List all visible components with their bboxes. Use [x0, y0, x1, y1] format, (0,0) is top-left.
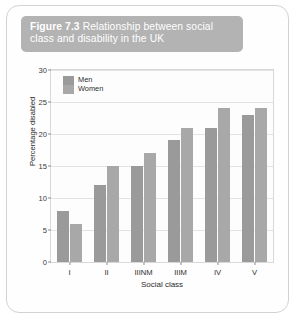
- gridline: [51, 134, 273, 135]
- y-axis-tick-mark: [48, 166, 51, 167]
- bar-v-women: [255, 108, 268, 262]
- y-axis-tick-label: 0: [43, 258, 47, 267]
- legend-labels: Men Women: [78, 75, 103, 93]
- y-axis-tick-mark: [48, 102, 51, 103]
- figure-title-banner: Figure 7.3 Relationship between social c…: [21, 16, 243, 52]
- bar-v-men: [242, 115, 255, 262]
- y-axis-tick-mark: [48, 134, 51, 135]
- y-axis-tick-label: 5: [43, 226, 47, 235]
- bar-iiinm-men: [131, 166, 144, 262]
- gridline: [51, 70, 273, 71]
- chart-plot-frame: 051015202530IIIIIINMIIIMIVV Men Women: [50, 69, 274, 263]
- x-axis-title: Social class: [50, 280, 274, 289]
- x-axis-tick-label: V: [252, 268, 257, 277]
- bar-iiim-women: [181, 128, 194, 262]
- x-axis-tick-mark: [180, 262, 181, 265]
- y-axis-tick-label: 30: [39, 66, 47, 75]
- x-axis-tick-mark: [106, 262, 107, 265]
- bar-ii-men: [94, 185, 107, 262]
- bar-iv-men: [205, 128, 218, 262]
- bar-i-men: [57, 211, 70, 262]
- legend-swatch-men: [63, 76, 74, 85]
- legend-swatch-women: [63, 85, 74, 94]
- x-axis-tick-mark: [217, 262, 218, 265]
- x-axis-tick-mark: [143, 262, 144, 265]
- gridline: [51, 198, 273, 199]
- y-axis-tick-mark: [48, 262, 51, 263]
- gridline: [51, 230, 273, 231]
- figure-number: Figure 7.3: [30, 21, 80, 32]
- y-axis-tick-mark: [48, 70, 51, 71]
- plot-area: 051015202530IIIIIINMIIIMIVV: [51, 70, 273, 262]
- bar-i-women: [70, 224, 83, 262]
- y-axis-tick-label: 20: [39, 130, 47, 139]
- x-axis-tick-label: IIIM: [174, 268, 187, 277]
- x-axis-tick-label: IIINM: [134, 268, 152, 277]
- gridline: [51, 102, 273, 103]
- bar-ii-women: [107, 166, 120, 262]
- x-axis-tick-label: IV: [214, 268, 221, 277]
- legend-label-men: Men: [78, 75, 103, 84]
- x-axis-tick-mark: [254, 262, 255, 265]
- y-axis-tick-label: 10: [39, 194, 47, 203]
- x-axis-tick-label: II: [104, 268, 108, 277]
- y-axis-tick-mark: [48, 198, 51, 199]
- x-axis-tick-label: I: [68, 268, 70, 277]
- y-axis-tick-label: 15: [39, 162, 47, 171]
- chart-legend: Men Women: [63, 75, 103, 94]
- legend-label-women: Women: [78, 84, 103, 93]
- x-axis-tick-mark: [69, 262, 70, 265]
- gridline: [51, 166, 273, 167]
- y-axis-tick-label: 25: [39, 98, 47, 107]
- bar-iiim-men: [168, 140, 181, 262]
- y-axis-tick-mark: [48, 230, 51, 231]
- bar-iv-women: [218, 108, 231, 262]
- y-axis-title: Percentage disabled: [28, 97, 37, 166]
- legend-swatches: [63, 75, 74, 94]
- figure-card: Figure 7.3 Relationship between social c…: [6, 5, 289, 313]
- bar-iiinm-women: [144, 153, 157, 262]
